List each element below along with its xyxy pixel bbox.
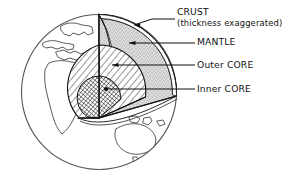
crust-label: CRUST	[177, 6, 209, 17]
mantle-label: MANTLE	[197, 36, 236, 47]
inner-core-leader-dot	[104, 87, 108, 91]
inner-core-label: Inner CORE	[197, 83, 251, 94]
continent-new-zealand	[156, 153, 160, 158]
earth-cutaway-figure: CRUST (thickness exaggerated) MANTLE Out…	[0, 0, 292, 182]
crust-note-label: (thickness exaggerated)	[177, 18, 282, 28]
outer-core-label: Outer CORE	[197, 59, 253, 70]
diagram-canvas: CRUST (thickness exaggerated) MANTLE Out…	[0, 0, 292, 182]
